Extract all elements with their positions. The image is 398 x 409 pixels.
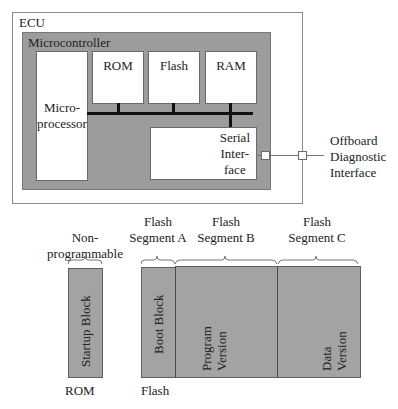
flash-footer-label: Flash <box>141 383 169 398</box>
brace-segment-c <box>278 256 358 264</box>
startup-block: Startup Block <box>68 268 103 378</box>
data-version-block: Data Version <box>277 266 361 378</box>
program-version-line1: Program <box>200 326 214 371</box>
startup-block-label: Startup Block <box>79 295 93 367</box>
brace-nonprogrammable <box>68 256 102 264</box>
boot-block-label: Boot Block <box>152 294 166 354</box>
data-version-line1: Data <box>320 346 334 371</box>
rom-footer-label: ROM <box>65 383 95 398</box>
brace-segment-a <box>141 256 175 264</box>
program-version-block: Program Version <box>175 266 278 378</box>
brace-segment-b <box>175 256 277 264</box>
boot-block: Boot Block <box>141 267 176 378</box>
data-version-line2: Version <box>335 331 349 371</box>
program-version-line2: Version <box>215 331 229 371</box>
